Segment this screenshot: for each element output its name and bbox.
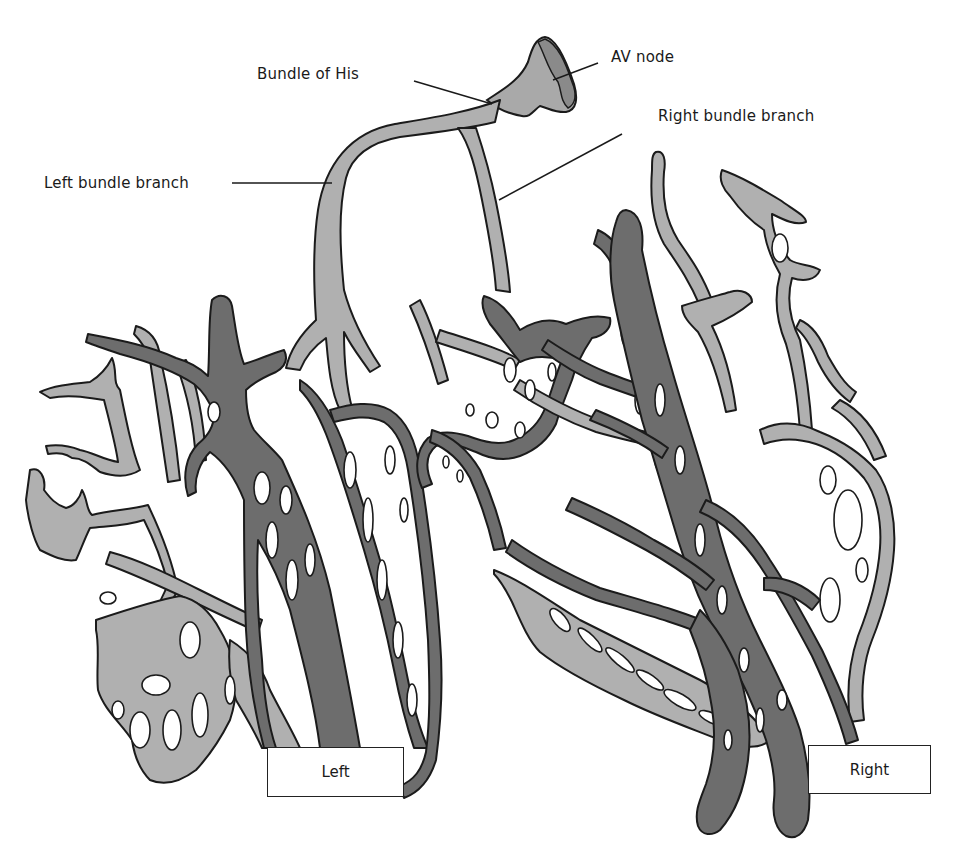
- label-right-bundle-branch: Right bundle branch: [658, 109, 814, 124]
- box-label-left: Left: [267, 747, 404, 797]
- box-label-right: Right: [808, 745, 931, 794]
- conduction-system-illustration: [0, 0, 956, 860]
- label-av-node: AV node: [611, 50, 674, 65]
- bundle-of-his-shape: [286, 100, 510, 410]
- pointer-bundle-of-his: [414, 81, 492, 104]
- pointer-right-bundle-branch: [499, 134, 622, 200]
- label-bundle-of-his: Bundle of His: [257, 67, 359, 82]
- box-label-left-text: Left: [321, 763, 349, 781]
- box-label-right-text: Right: [850, 761, 890, 779]
- label-left-bundle-branch: Left bundle branch: [44, 176, 189, 191]
